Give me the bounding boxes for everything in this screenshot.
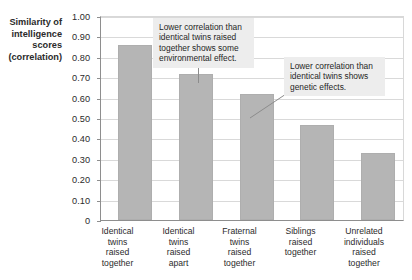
y-tick-mark <box>97 160 101 161</box>
y-tick-mark <box>97 99 101 100</box>
y-tick-mark <box>97 221 101 222</box>
x-label-line: together <box>209 258 270 269</box>
annotation-line: Lower correlation than <box>159 22 249 32</box>
annotation-environmental-effect: Lower correlation than identical twins r… <box>153 18 254 68</box>
x-label-line: together <box>270 247 331 258</box>
annotation-line: identical twins shows <box>290 71 380 81</box>
x-axis-label-identical-twins-raised-apart: Identical twins raised apart <box>148 226 209 268</box>
x-label-line: raised <box>209 247 270 258</box>
x-label-line: together <box>331 258 397 269</box>
x-label-line: twins <box>148 237 209 248</box>
x-label-line: raised <box>331 247 397 258</box>
annotation-leader-line-genetic <box>248 94 288 119</box>
y-tick-mark <box>97 78 101 79</box>
y-tick-label: 0.30 <box>50 155 90 165</box>
y-tick-mark <box>97 180 101 181</box>
x-label-line: twins <box>209 237 270 248</box>
x-label-line: raised <box>87 247 148 258</box>
y-tick-label: 1.00 <box>50 12 90 22</box>
y-tick-mark <box>97 119 101 120</box>
y-tick-label: 0.20 <box>50 175 90 185</box>
annotation-line: genetic effects. <box>290 82 380 92</box>
y-tick-label: 0.80 <box>50 53 90 63</box>
y-tick-mark <box>97 139 101 140</box>
x-label-line: Fraternal <box>209 226 270 237</box>
x-label-line: raised <box>270 237 331 248</box>
annotation-line: Lower correlation than <box>290 61 380 71</box>
y-tick-mark <box>97 201 101 202</box>
bar-identical-twins-raised-apart <box>179 74 213 220</box>
y-tick-mark <box>97 17 101 18</box>
bar-identical-twins-raised-together <box>118 45 152 220</box>
y-tick-mark <box>97 58 101 59</box>
bar-unrelated-individuals-raised-together <box>361 153 395 220</box>
annotation-line: together shows some <box>159 43 249 53</box>
x-axis-label-unrelated-individuals-raised-together: Unrelated individuals raised together <box>331 226 397 268</box>
x-label-line: Identical <box>87 226 148 237</box>
x-label-line: Identical <box>148 226 209 237</box>
bar-siblings-raised-together <box>300 125 334 220</box>
x-label-line: raised <box>148 247 209 258</box>
x-label-line: apart <box>148 258 209 269</box>
x-label-line: individuals <box>331 237 397 248</box>
y-tick-label: 0.70 <box>50 73 90 83</box>
x-axis-label-fraternal-twins-raised-together: Fraternal twins raised together <box>209 226 270 268</box>
annotation-line: environmental effect. <box>159 53 249 63</box>
bar-chart: Similarity of intelligence scores (corre… <box>0 0 412 280</box>
x-label-line: twins <box>87 237 148 248</box>
y-tick-label: 0.50 <box>50 114 90 124</box>
y-tick-mark <box>97 37 101 38</box>
x-label-line: together <box>87 258 148 269</box>
y-tick-label: 0.10 <box>50 196 90 206</box>
x-label-line: Unrelated <box>331 226 397 237</box>
y-tick-label: 0.90 <box>50 32 90 42</box>
annotation-genetic-effects: Lower correlation than identical twins s… <box>284 57 385 96</box>
y-tick-label: 0.40 <box>50 134 90 144</box>
x-axis-label-identical-twins-raised-together: Identical twins raised together <box>87 226 148 268</box>
y-tick-label: 0 <box>50 216 90 226</box>
annotation-line: identical twins raised <box>159 32 249 42</box>
x-label-line: Siblings <box>270 226 331 237</box>
y-tick-label: 0.60 <box>50 94 90 104</box>
x-axis-label-siblings-raised-together: Siblings raised together <box>270 226 331 258</box>
